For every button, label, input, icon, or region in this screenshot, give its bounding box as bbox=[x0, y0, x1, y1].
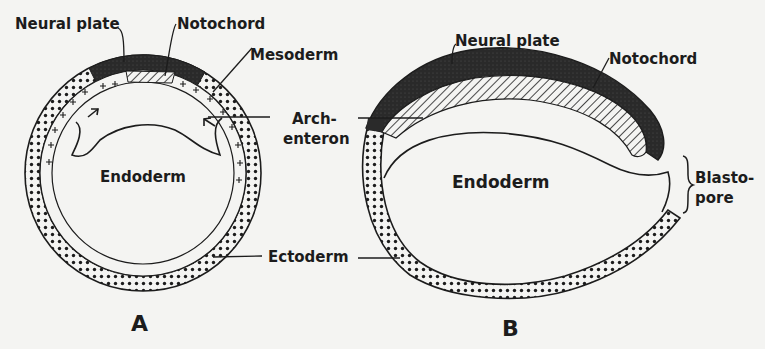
label-blastopore-line2: pore bbox=[695, 189, 734, 207]
shared-labels: Arch- enteron Ectoderm bbox=[268, 110, 350, 266]
label-neural-plate-b: Neural plate bbox=[455, 32, 560, 50]
panel-label-a: A bbox=[131, 311, 148, 336]
leader-mesoderm-a bbox=[213, 48, 252, 92]
label-ectoderm: Ectoderm bbox=[268, 248, 349, 266]
panel-label-b: B bbox=[502, 316, 519, 341]
panel-b: Neural plate Notochord Endoderm Blasto- … bbox=[358, 32, 754, 341]
dark-cap-b bbox=[366, 118, 385, 132]
label-neural-plate-a: Neural plate bbox=[15, 15, 120, 33]
label-notochord-a: Notochord bbox=[177, 15, 265, 33]
embryo-diagram: Neural plate Notochord Mesoderm Endoderm… bbox=[0, 0, 765, 349]
label-archenteron-line1: Arch- bbox=[292, 110, 337, 128]
arrow-left-a bbox=[88, 109, 98, 117]
panel-a: Neural plate Notochord Mesoderm Endoderm… bbox=[15, 15, 338, 336]
label-mesoderm-a: Mesoderm bbox=[250, 46, 338, 64]
archenteron-outline-a bbox=[72, 118, 222, 156]
label-archenteron-line2: enteron bbox=[283, 130, 350, 148]
blastopore-bracket bbox=[683, 156, 693, 213]
label-blastopore-line1: Blasto- bbox=[695, 169, 754, 187]
label-endoderm-a: Endoderm bbox=[100, 168, 186, 186]
label-notochord-b: Notochord bbox=[609, 50, 697, 68]
label-endoderm-b: Endoderm bbox=[452, 172, 549, 192]
notochord-a bbox=[126, 71, 175, 83]
arrow-right-a bbox=[204, 118, 215, 126]
